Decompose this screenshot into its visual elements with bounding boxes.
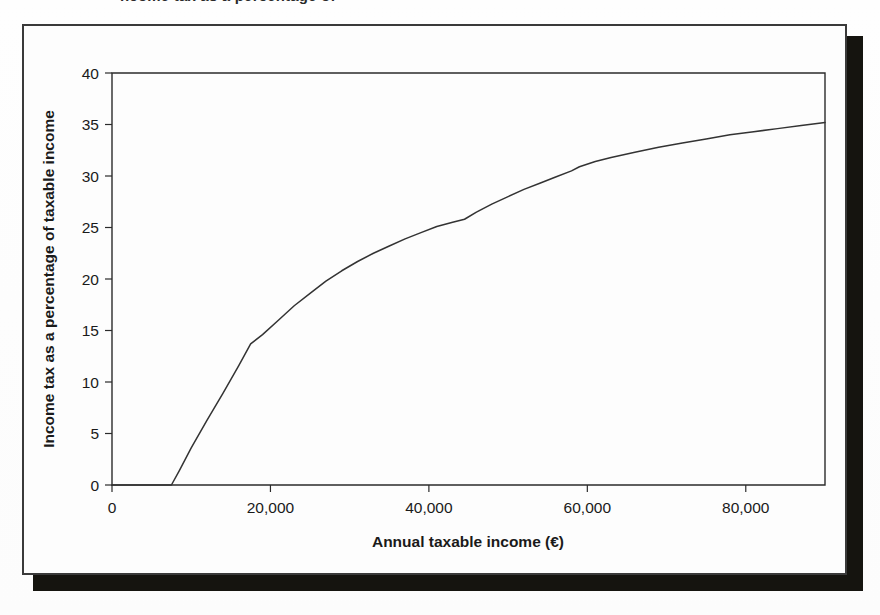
x-axis-tick-labels: 020,00040,00060,00080,000 [108,499,770,516]
x-tick-label: 0 [108,499,117,516]
x-tick-label: 80,000 [722,499,770,516]
x-axis-title: Annual taxable income (€) [372,533,564,550]
y-axis-ticks [105,73,112,485]
y-axis-title: Income tax as a percentage of taxable in… [40,110,57,448]
cropped-caption-above-figure: ncome tax as a percentage of [0,0,880,9]
chart-figure-frame: 0510152025303540 020,00040,00060,00080,0… [22,24,847,575]
y-tick-label: 0 [90,477,99,494]
y-tick-label: 5 [90,425,99,442]
y-axis-tick-labels: 0510152025303540 [82,65,100,494]
x-tick-label: 60,000 [564,499,612,516]
x-tick-label: 40,000 [405,499,453,516]
y-tick-label: 40 [82,65,100,82]
x-tick-label: 20,000 [247,499,295,516]
line-chart: 0510152025303540 020,00040,00060,00080,0… [24,26,845,573]
cropped-caption-text: ncome tax as a percentage of [120,0,336,4]
x-axis-ticks [112,485,746,492]
y-tick-label: 25 [82,219,99,236]
y-tick-label: 15 [82,322,99,339]
y-tick-label: 10 [82,374,100,391]
y-tick-label: 35 [82,116,99,133]
plot-area-background [112,73,825,485]
y-tick-label: 20 [82,271,100,288]
y-tick-label: 30 [82,168,100,185]
